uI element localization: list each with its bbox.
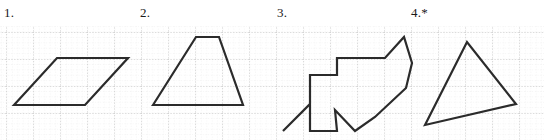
figure-label-2: 2. [140, 6, 150, 19]
figure-label-4: 4.* [411, 6, 428, 19]
figure-1-parallelogram [14, 58, 128, 105]
figure-4-triangle [425, 42, 516, 125]
figures-layer [0, 0, 544, 140]
figure-2-trapezoid [153, 37, 243, 105]
figure-label-3: 3. [277, 6, 287, 19]
worksheet-page: 1. 2. 3. 4.* [0, 0, 544, 140]
figure-label-1: 1. [4, 6, 14, 19]
figure-3-irregular-polygon [283, 37, 412, 131]
